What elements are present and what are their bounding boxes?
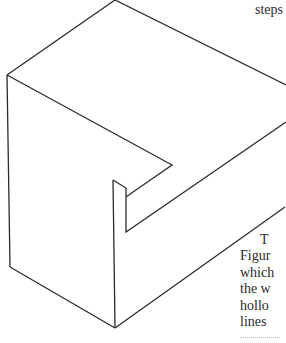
paragraph-fragment: T Figur which the w hollo lines [240,232,286,330]
upper-front-edge [7,75,172,192]
paragraph-line: the w [240,281,286,297]
central-vertical-edge [113,180,115,328]
paragraph-line: lines [240,314,286,330]
paragraph-line: which [240,265,286,281]
cropped-text-line [240,336,286,339]
bottom-left-edge [10,267,115,328]
text-fragment-top: steps [255,2,283,18]
paragraph-line: T [240,232,286,248]
notch-small-edge [126,192,133,197]
cropped-text-remnant [240,337,280,338]
top-face-outline [7,0,286,85]
paragraph-line: hollo [240,298,286,314]
left-vertical-edge [7,75,10,267]
notch-inner-edge [113,122,286,232]
paragraph-line: Figur [240,248,286,264]
